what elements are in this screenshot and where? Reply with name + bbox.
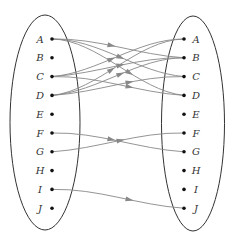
element-label: B xyxy=(191,52,199,63)
dot-icon xyxy=(182,206,186,210)
dot-icon xyxy=(182,56,186,60)
element-label: E xyxy=(35,109,44,120)
arrowhead-icon xyxy=(116,137,125,144)
right-element-c: C xyxy=(182,71,200,82)
left-set-ellipse xyxy=(10,15,80,230)
element-label: B xyxy=(35,52,43,63)
left-element-e: E xyxy=(35,109,53,120)
element-label: C xyxy=(192,71,200,82)
element-label: H xyxy=(191,165,201,176)
element-label: G xyxy=(192,146,200,157)
left-element-a: A xyxy=(35,34,53,45)
element-label: J xyxy=(36,203,43,214)
element-label: E xyxy=(191,109,200,120)
dot-icon xyxy=(182,94,186,98)
dot-icon xyxy=(182,169,186,173)
right-set-ellipse xyxy=(162,16,225,231)
dot-icon xyxy=(182,188,186,192)
element-label: C xyxy=(36,71,44,82)
element-label: D xyxy=(191,90,200,101)
dot-icon xyxy=(50,169,54,173)
right-element-f: F xyxy=(182,128,200,139)
element-label: J xyxy=(192,203,199,214)
element-label: A xyxy=(35,34,43,45)
element-label: G xyxy=(36,146,44,157)
dot-icon xyxy=(50,94,54,98)
right-element-g: G xyxy=(182,146,200,157)
element-label: I xyxy=(193,184,199,195)
mapping-arrows xyxy=(52,39,184,208)
right-element-e: E xyxy=(182,109,200,120)
right-set-elements: ABCDEFGHIJ xyxy=(182,34,200,214)
left-element-h: H xyxy=(35,165,54,176)
right-element-j: J xyxy=(182,203,199,214)
dot-icon xyxy=(182,75,186,79)
dot-icon xyxy=(182,131,186,135)
dot-icon xyxy=(50,75,54,79)
dot-icon xyxy=(50,37,54,41)
right-element-b: B xyxy=(182,52,199,63)
element-label: I xyxy=(37,184,43,195)
left-element-c: C xyxy=(36,71,54,82)
left-element-i: I xyxy=(37,184,54,195)
element-label: D xyxy=(35,90,44,101)
dot-icon xyxy=(182,112,186,116)
left-element-j: J xyxy=(36,203,54,214)
left-element-d: D xyxy=(35,90,54,101)
dot-icon xyxy=(50,188,54,192)
arrowhead-icon xyxy=(125,196,134,203)
left-element-b: B xyxy=(35,52,53,63)
dot-icon xyxy=(50,131,54,135)
dot-icon xyxy=(182,37,186,41)
right-element-a: A xyxy=(182,34,199,45)
dot-icon xyxy=(50,112,54,116)
mapping-arrow xyxy=(52,133,184,152)
left-set-elements: ABCDEFGHIJ xyxy=(35,34,54,214)
mapping-diagram: ABCDEFGHIJ ABCDEFGHIJ xyxy=(0,0,238,246)
right-element-h: H xyxy=(182,165,200,176)
right-element-i: I xyxy=(182,184,199,195)
arrowhead-icon xyxy=(116,70,125,78)
dot-icon xyxy=(50,56,54,60)
dot-icon xyxy=(50,206,54,210)
arrowhead-icon xyxy=(125,79,134,85)
dot-icon xyxy=(182,150,186,154)
element-label: H xyxy=(35,165,45,176)
arrowhead-icon xyxy=(116,54,125,62)
right-element-d: D xyxy=(182,90,200,101)
element-label: F xyxy=(192,128,201,139)
element-label: A xyxy=(191,34,199,45)
dot-icon xyxy=(50,150,54,154)
left-element-f: F xyxy=(36,128,54,139)
left-element-g: G xyxy=(36,146,54,157)
element-label: F xyxy=(36,128,45,139)
arrowhead-icon xyxy=(107,42,116,48)
mapping-arrow xyxy=(52,39,184,77)
